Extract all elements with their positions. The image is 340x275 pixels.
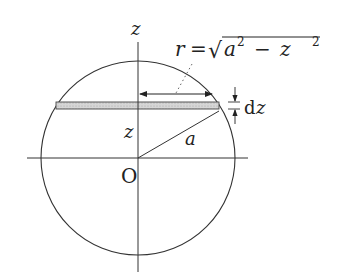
radius-formula: r = √ a 2 − z 2	[175, 35, 320, 63]
svg-text:r: r	[175, 37, 186, 61]
svg-text:2: 2	[312, 35, 320, 49]
svg-text:=: =	[190, 37, 207, 61]
radius-line	[138, 111, 219, 158]
z-axis-label: z	[130, 18, 141, 39]
svg-text:a: a	[224, 37, 236, 61]
dz-label: d z	[244, 97, 266, 118]
origin-label: O	[121, 164, 137, 188]
svg-text:z: z	[279, 37, 291, 61]
svg-text:z: z	[255, 97, 266, 118]
svg-text:d: d	[244, 97, 256, 118]
svg-text:√: √	[208, 38, 223, 63]
formula-leader-line	[176, 64, 192, 93]
z-height-label: z	[123, 121, 134, 142]
radius-label: a	[185, 128, 196, 149]
sphere-slice-diagram: z O z a r = √ a 2 − z 2 d z	[0, 0, 340, 275]
svg-text:−: −	[254, 37, 271, 61]
svg-text:2: 2	[237, 35, 245, 49]
